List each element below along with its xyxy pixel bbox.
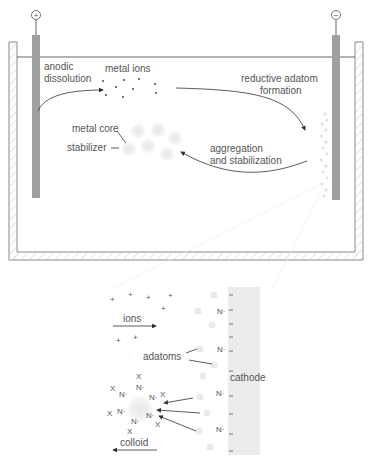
svg-text:N·: N· <box>119 390 127 399</box>
svg-text:N·: N· <box>131 417 139 426</box>
anode: + <box>32 11 41 199</box>
label-adatoms: adatoms <box>143 351 181 362</box>
arrow-dissolution <box>38 90 103 111</box>
svg-text:X: X <box>160 390 166 399</box>
label-stabilizer: stabilizer <box>67 142 107 153</box>
cathode-electrode <box>332 35 340 200</box>
label-ions: ions <box>123 313 141 324</box>
ions: + + + + + + + <box>110 290 173 345</box>
svg-text:+: + <box>168 291 173 300</box>
label-and-stabilization: and stabilization <box>210 155 282 166</box>
svg-text:N·: N· <box>117 407 125 416</box>
label-anodic: anodic <box>44 61 73 72</box>
metal-ion-dots <box>102 78 157 98</box>
svg-text:N·: N· <box>149 393 157 402</box>
label-metal-core: metal core <box>72 123 119 134</box>
adatom-cluster <box>319 112 328 197</box>
label-metal-ions: metal ions <box>105 63 151 74</box>
cathode-minus-symbol: − <box>334 11 339 20</box>
svg-text:N·: N· <box>217 307 225 316</box>
label-colloid: colloid <box>120 437 148 448</box>
anode-plus-symbol: + <box>34 11 39 20</box>
svg-text:+: + <box>110 295 115 304</box>
inset-cathode-detail: cathode N· N· N· N· + + + + + + + ions a… <box>107 287 266 455</box>
colloid-particles <box>122 123 182 161</box>
svg-text:X: X <box>110 384 116 393</box>
cathode: − <box>332 11 341 201</box>
svg-text:+: + <box>128 290 133 299</box>
label-cathode: cathode <box>230 372 266 383</box>
svg-text:+: + <box>133 333 138 342</box>
svg-text:X: X <box>107 409 113 418</box>
anode-electrode <box>32 35 40 98</box>
svg-text:N·: N· <box>136 383 144 392</box>
svg-text:N·: N· <box>146 411 154 420</box>
label-formation: formation <box>260 85 302 96</box>
label-aggregation: aggregation <box>210 143 263 154</box>
svg-text:+: + <box>161 304 166 313</box>
label-dissolution: dissolution <box>44 73 91 84</box>
svg-text:N·: N· <box>216 425 224 434</box>
svg-text:+: + <box>116 336 121 345</box>
svg-text:N·: N· <box>216 389 224 398</box>
electrochemical-cell-diagram: + − anodic dissolution metal ions reduct… <box>0 0 373 464</box>
svg-text:+: + <box>146 293 151 302</box>
svg-text:X: X <box>136 372 142 381</box>
svg-text:X: X <box>127 427 133 436</box>
svg-text:N·: N· <box>217 345 225 354</box>
label-reductive: reductive adatom <box>241 73 318 84</box>
svg-text:X: X <box>155 420 161 429</box>
